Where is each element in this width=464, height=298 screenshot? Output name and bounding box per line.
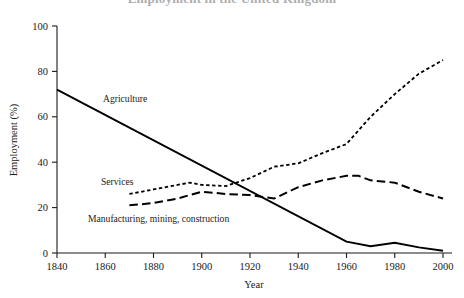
x-tick-label: 2000 [433,261,454,272]
y-tick-label: 40 [38,157,49,168]
series-line-agriculture [57,90,443,251]
chart-figure: Employment in the United Kingdom 0204060… [0,0,464,298]
y-tick-label: 80 [38,66,49,77]
series-line-services [129,60,443,194]
x-axis-title: Year [244,279,264,290]
series-line-manufacturing [129,176,443,206]
x-tick-label: 1840 [47,261,68,272]
series-label-agriculture: Agriculture [103,93,147,104]
y-tick-label: 100 [32,21,48,32]
x-tick-label: 1880 [143,261,164,272]
y-axis-title: Employment (%) [8,103,20,176]
x-tick-label: 1920 [240,261,261,272]
x-tick-label: 1940 [288,261,309,272]
x-axis-ticks [57,253,443,258]
y-axis-tick-labels: 020406080100 [32,21,48,259]
y-tick-label: 20 [38,202,49,213]
x-tick-label: 1960 [336,261,357,272]
x-tick-label: 1900 [191,261,212,272]
y-axis-ticks [52,26,57,253]
x-tick-label: 1860 [95,261,116,272]
line-chart-svg: 020406080100 184018601880190019201940196… [0,0,464,298]
x-axis-tick-labels: 184018601880190019201940196019802000 [47,261,454,272]
series-label-manufacturing: Manufacturing, mining, construction [88,213,229,224]
cut-off-chart-title: Employment in the United Kingdom [0,0,464,7]
y-tick-label: 0 [43,248,48,259]
x-tick-label: 1980 [384,261,405,272]
series-label-services: Services [101,176,134,187]
y-tick-label: 60 [38,111,49,122]
